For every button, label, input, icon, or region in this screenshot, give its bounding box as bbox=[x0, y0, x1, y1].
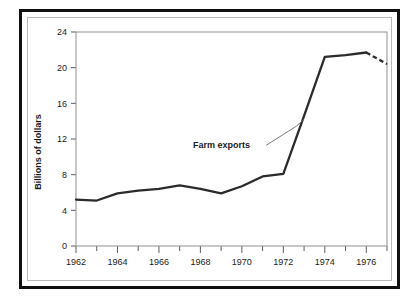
outer-border: 04812162024 1962196419661968197019721974… bbox=[19, 9, 400, 289]
annotation-label: Farm exports bbox=[193, 140, 250, 150]
y-tick-label: 20 bbox=[57, 63, 67, 73]
x-tick-label: 1962 bbox=[66, 257, 86, 267]
x-tick-label: 1964 bbox=[107, 257, 127, 267]
x-axis: 19621964196619681970197219741976 bbox=[66, 246, 387, 267]
y-tick-label: 16 bbox=[57, 99, 67, 109]
series-line-solid bbox=[76, 53, 366, 201]
series-farm-exports bbox=[76, 53, 387, 201]
plot-frame-rect bbox=[76, 32, 387, 246]
y-tick-label: 4 bbox=[62, 206, 67, 216]
y-tick-label: 0 bbox=[62, 241, 67, 251]
y-tick-label: 8 bbox=[62, 170, 67, 180]
x-tick-label: 1970 bbox=[232, 257, 252, 267]
series-line-dashed bbox=[366, 53, 387, 65]
inner-border: 04812162024 1962196419661968197019721974… bbox=[27, 17, 392, 281]
annotation-farm-exports: Farm exports bbox=[193, 119, 304, 150]
line-chart: 04812162024 1962196419661968197019721974… bbox=[28, 18, 397, 286]
chart-plot-area: 04812162024 1962196419661968197019721974… bbox=[28, 18, 391, 280]
x-tick-label: 1974 bbox=[315, 257, 335, 267]
figure-container: 04812162024 1962196419661968197019721974… bbox=[0, 0, 419, 307]
y-axis: 04812162024 bbox=[57, 27, 76, 251]
x-tick-label: 1972 bbox=[273, 257, 293, 267]
x-tick-label: 1966 bbox=[149, 257, 169, 267]
y-tick-label: 24 bbox=[57, 27, 67, 37]
plot-frame bbox=[76, 32, 387, 246]
x-tick-label: 1976 bbox=[356, 257, 376, 267]
x-tick-label: 1968 bbox=[190, 257, 210, 267]
y-tick-label: 12 bbox=[57, 134, 67, 144]
y-axis-title: Billions of dollars bbox=[33, 114, 43, 190]
